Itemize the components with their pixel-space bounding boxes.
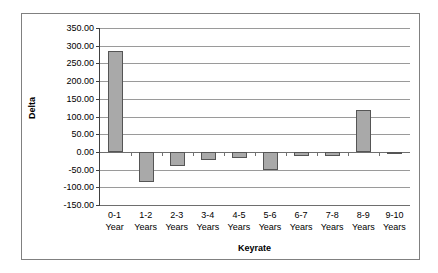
y-axis-tick-label: -150.00 xyxy=(63,201,94,210)
x-axis-tick xyxy=(255,152,256,156)
y-axis-tick xyxy=(96,63,100,64)
category-label-line1: 3-4 xyxy=(201,210,214,220)
x-axis-tick xyxy=(162,152,163,156)
y-axis-tick-label: 200.00 xyxy=(66,77,94,86)
x-axis-category-label: 0-1Year xyxy=(99,209,130,243)
x-axis-category-label: 1-2Years xyxy=(130,209,161,243)
y-axis-tick-label: 0.00 xyxy=(76,147,94,156)
y-axis-tick xyxy=(96,152,100,153)
y-axis-tick xyxy=(96,99,100,100)
plot-area: 350.00300.00250.00200.00150.00100.0050.0… xyxy=(99,28,410,205)
x-axis-tick xyxy=(286,152,287,156)
bar[interactable] xyxy=(263,152,277,170)
x-axis-title: Keyrate xyxy=(99,243,410,253)
bar[interactable] xyxy=(201,152,215,160)
category-label-line2: Years xyxy=(192,221,223,233)
x-axis-category-label: 2-3Years xyxy=(161,209,192,243)
x-axis-tick xyxy=(131,152,132,156)
x-axis-tick xyxy=(379,152,380,156)
y-axis-tick xyxy=(96,117,100,118)
y-axis-tick-label: 350.00 xyxy=(66,24,94,33)
gridline xyxy=(100,81,410,82)
bar[interactable] xyxy=(170,152,184,166)
y-axis-tick xyxy=(96,134,100,135)
y-axis-tick xyxy=(96,46,100,47)
y-axis-tick xyxy=(96,205,100,206)
y-axis-tick xyxy=(96,28,100,29)
bar[interactable] xyxy=(139,152,153,182)
category-label-line1: 7-8 xyxy=(326,210,339,220)
bar[interactable] xyxy=(356,110,370,152)
category-label-line2: Years xyxy=(286,221,317,233)
category-label-line2: Years xyxy=(161,221,192,233)
category-label-line2: Years xyxy=(254,221,285,233)
category-label-line1: 9-10 xyxy=(385,210,403,220)
category-label-line1: 0-1 xyxy=(108,210,121,220)
y-axis-tick-label: 300.00 xyxy=(66,41,94,50)
y-axis-title-label: Delta xyxy=(27,88,37,128)
category-label-line1: 2-3 xyxy=(170,210,183,220)
category-label-line1: 8-9 xyxy=(357,210,370,220)
x-axis-tick xyxy=(317,152,318,156)
category-label-line1: 6-7 xyxy=(295,210,308,220)
x-axis-tick xyxy=(348,152,349,156)
y-axis-tick-label: 100.00 xyxy=(66,112,94,121)
chart-frame: Delta 350.00300.00250.00200.00150.00100.… xyxy=(21,13,420,260)
y-axis-tick xyxy=(96,81,100,82)
bar[interactable] xyxy=(108,51,122,152)
x-axis-category-label: 8-9Years xyxy=(348,209,379,243)
x-axis-category-label: 6-7Years xyxy=(286,209,317,243)
x-axis-category-label: 4-5Years xyxy=(223,209,254,243)
bar[interactable] xyxy=(325,152,339,156)
y-axis-tick-label: -50.00 xyxy=(68,165,94,174)
category-label-line1: 1-2 xyxy=(139,210,152,220)
category-label-line1: 5-6 xyxy=(264,210,277,220)
gridline xyxy=(100,46,410,47)
y-axis-tick-label: -100.00 xyxy=(63,183,94,192)
bar[interactable] xyxy=(232,152,246,158)
bar[interactable] xyxy=(387,152,401,154)
x-axis-category-labels: 0-1Year1-2Years2-3Years3-4Years4-5Years5… xyxy=(99,209,410,243)
x-axis-category-label: 9-10Years xyxy=(379,209,410,243)
gridline xyxy=(100,28,410,29)
category-label-line2: Year xyxy=(99,221,130,233)
gridline xyxy=(100,99,410,100)
y-axis-tick xyxy=(96,187,100,188)
gridline xyxy=(100,205,410,206)
bar[interactable] xyxy=(294,152,308,156)
category-label-line2: Years xyxy=(130,221,161,233)
y-axis-tick xyxy=(96,170,100,171)
category-label-line2: Years xyxy=(317,221,348,233)
x-axis-category-label: 5-6Years xyxy=(254,209,285,243)
x-axis-category-label: 7-8Years xyxy=(317,209,348,243)
category-label-line2: Years xyxy=(223,221,254,233)
y-axis-tick-label: 250.00 xyxy=(66,59,94,68)
x-axis-tick xyxy=(224,152,225,156)
category-label-line1: 4-5 xyxy=(232,210,245,220)
category-label-line2: Years xyxy=(348,221,379,233)
y-axis-tick-label: 50.00 xyxy=(71,130,94,139)
gridline xyxy=(100,187,410,188)
y-axis-tick-label: 150.00 xyxy=(66,94,94,103)
category-label-line2: Years xyxy=(379,221,410,233)
x-axis-category-label: 3-4Years xyxy=(192,209,223,243)
y-axis-title: Delta xyxy=(25,74,39,144)
gridline xyxy=(100,63,410,64)
x-axis-tick xyxy=(193,152,194,156)
